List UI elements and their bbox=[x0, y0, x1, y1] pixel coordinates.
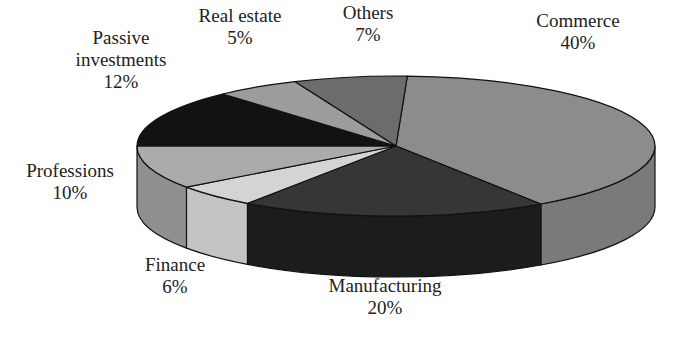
slice-name: Professions bbox=[26, 160, 114, 182]
slice-name: Passive bbox=[76, 27, 167, 49]
slice-percent: 7% bbox=[343, 24, 394, 46]
pie-top-faces bbox=[137, 76, 655, 216]
slice-label: Passiveinvestments12% bbox=[76, 27, 167, 93]
slice-name: Others bbox=[343, 2, 394, 24]
slice-name: Finance bbox=[145, 254, 205, 276]
slice-name: Manufacturing bbox=[329, 275, 442, 297]
slice-label: Professions10% bbox=[26, 160, 114, 204]
slice-label: Commerce40% bbox=[536, 10, 619, 54]
slice-percent: 10% bbox=[26, 182, 114, 204]
slice-name: Commerce bbox=[536, 10, 619, 32]
slice-label: Finance6% bbox=[145, 254, 205, 298]
slice-percent: 12% bbox=[76, 71, 167, 93]
slice-percent: 20% bbox=[329, 297, 442, 319]
slice-label: Real estate5% bbox=[199, 5, 282, 49]
slice-label: Others7% bbox=[343, 2, 394, 46]
slice-name: investments bbox=[76, 49, 167, 71]
slice-percent: 5% bbox=[199, 27, 282, 49]
slice-percent: 6% bbox=[145, 276, 205, 298]
slice-name: Real estate bbox=[199, 5, 282, 27]
slice-label: Manufacturing20% bbox=[329, 275, 442, 319]
slice-percent: 40% bbox=[536, 32, 619, 54]
